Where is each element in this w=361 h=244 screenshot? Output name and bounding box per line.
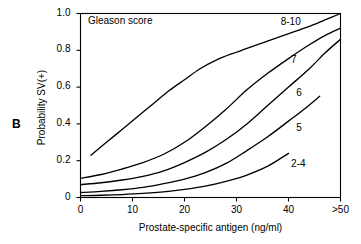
x-tick-label: 20 <box>165 204 205 215</box>
curve-label-2-4: 2-4 <box>291 158 305 169</box>
curve-label-8-10: 8-10 <box>281 16 301 27</box>
x-tick-label: 30 <box>217 204 257 215</box>
y-tick-label: 0.4 <box>43 117 71 128</box>
legend-title: Gleason score <box>88 15 152 26</box>
x-tick-label: 10 <box>113 204 153 215</box>
x-tick-label: 40 <box>269 204 309 215</box>
curve-8-10 <box>91 14 341 156</box>
y-tick-label: 0.6 <box>43 80 71 91</box>
y-tick-label: 0 <box>43 191 71 202</box>
curve-label-7: 7 <box>291 54 297 65</box>
figure-panel: B Probability SV(+) Prostate-specific an… <box>0 0 361 244</box>
curve-label-6: 6 <box>296 87 302 98</box>
y-tick-label: 1.0 <box>43 7 71 18</box>
curve-label-5: 5 <box>296 122 302 133</box>
y-tick-label: 0.8 <box>43 43 71 54</box>
y-tick-label: 0.2 <box>43 154 71 165</box>
curve-5 <box>81 96 320 192</box>
curve-7 <box>81 28 341 178</box>
x-axis-title: Prostate-specific antigen (ng/ml) <box>80 222 341 233</box>
x-tick-label: 0 <box>61 204 101 215</box>
curve-2-4 <box>81 153 289 195</box>
panel-label: B <box>12 117 21 131</box>
x-tick-label: >50 <box>321 204 361 215</box>
